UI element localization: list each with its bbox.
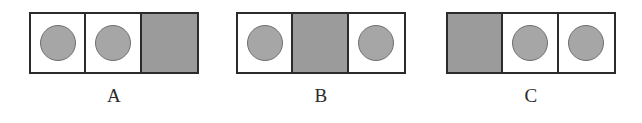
figure-label: B [236,84,406,108]
empty-cell[interactable] [86,14,141,72]
circle-icon [95,25,131,61]
figure-label: A [29,84,199,108]
grid-box [236,12,406,74]
empty-cell[interactable] [31,14,86,72]
grid-box [446,12,616,74]
circle-icon [358,25,394,61]
figure-group-b: B [236,0,406,123]
figure-group-a: A [29,0,199,123]
empty-cell[interactable] [238,14,293,72]
circle-icon [568,25,604,61]
shaded-cell[interactable] [142,14,197,72]
figure-strip: ABC [0,0,642,123]
circle-icon [247,25,283,61]
empty-cell[interactable] [559,14,614,72]
shaded-cell[interactable] [448,14,503,72]
circle-icon [40,25,76,61]
empty-cell[interactable] [349,14,404,72]
figure-group-c: C [446,0,616,123]
circle-icon [512,25,548,61]
figure-label: C [446,84,616,108]
shaded-cell[interactable] [293,14,348,72]
empty-cell[interactable] [503,14,558,72]
grid-box [29,12,199,74]
